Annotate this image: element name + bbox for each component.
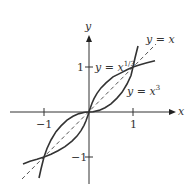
label-cube-root: y = x1/3 xyxy=(94,60,135,74)
y-tick-label-neg1: −1 xyxy=(71,151,87,164)
label-cube: y = x3 xyxy=(126,84,160,98)
x-axis-arrow-icon xyxy=(169,109,176,115)
y-axis-label: y xyxy=(84,20,92,33)
function-graph: −1 1 1 −1 x y y = x y = x1/3 y = x3 xyxy=(0,0,191,194)
x-tick-label-neg1: −1 xyxy=(36,118,52,131)
label-identity: y = x xyxy=(145,33,175,46)
y-axis-arrow-icon xyxy=(86,35,92,42)
x-tick-label-1: 1 xyxy=(130,118,137,131)
y-tick-label-1: 1 xyxy=(77,61,84,74)
x-axis-label: x xyxy=(178,105,185,118)
